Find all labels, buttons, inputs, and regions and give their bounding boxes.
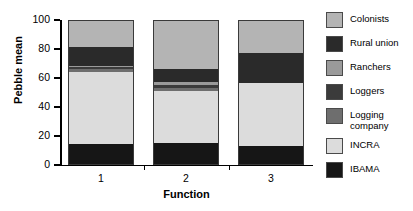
legend-label: IBAMA — [350, 162, 380, 175]
bar-segment — [239, 21, 303, 53]
legend-swatch-icon — [326, 138, 343, 154]
legend-label: Logging company — [350, 108, 389, 131]
bar-segment — [69, 21, 133, 47]
y-tick-label: 0 — [16, 158, 50, 170]
x-axis-title: Function — [60, 188, 313, 200]
legend-item[interactable]: Loggers — [326, 84, 384, 100]
chart-figure: Pebble mean 020406080100 123 Function Co… — [0, 0, 413, 211]
x-tick-label: 1 — [86, 172, 116, 184]
y-tick-mark — [54, 19, 60, 21]
legend-item[interactable]: IBAMA — [326, 162, 380, 178]
x-tick-label: 3 — [256, 172, 286, 184]
legend-swatch-icon — [326, 108, 343, 124]
legend-item[interactable]: Logging company — [326, 108, 389, 131]
bar-segment — [239, 83, 303, 145]
y-tick-mark — [54, 164, 60, 166]
legend-item[interactable]: Colonists — [326, 12, 389, 28]
bar-segment — [154, 143, 218, 165]
y-tick-mark — [54, 48, 60, 50]
legend-item[interactable]: Ranchers — [326, 60, 391, 76]
y-tick-mark — [54, 106, 60, 108]
legend-swatch-icon — [326, 60, 343, 76]
bar-segment — [154, 21, 218, 69]
legend-swatch-icon — [326, 12, 343, 28]
stacked-bar — [68, 20, 134, 165]
y-tick-label: 40 — [16, 100, 50, 112]
y-axis-title: Pebble mean — [12, 10, 24, 130]
bar-segment — [69, 72, 133, 145]
legend-item[interactable]: INCRA — [326, 138, 380, 154]
y-tick-mark — [54, 77, 60, 79]
bar-segment — [154, 91, 218, 143]
bar-segment — [239, 53, 303, 83]
bar-segment — [69, 144, 133, 165]
bar-segment — [239, 146, 303, 165]
legend-swatch-icon — [326, 162, 343, 178]
legend-label: Colonists — [350, 12, 389, 25]
y-axis-line — [60, 20, 62, 165]
y-tick-label: 100 — [16, 13, 50, 25]
x-tick-mark — [144, 165, 146, 170]
y-tick-label: 80 — [16, 42, 50, 54]
legend-swatch-icon — [326, 84, 343, 100]
x-tick-label: 2 — [171, 172, 201, 184]
plot-area: Pebble mean 020406080100 123 Function — [0, 0, 320, 211]
legend-label: Ranchers — [350, 60, 391, 73]
y-tick-label: 60 — [16, 71, 50, 83]
bar-segment — [69, 47, 133, 66]
stacked-bar — [238, 20, 304, 165]
legend-label: Rural union — [350, 36, 399, 49]
legend: ColonistsRural unionRanchersLoggersLoggi… — [326, 8, 413, 203]
y-tick-label: 20 — [16, 129, 50, 141]
stacked-bar — [153, 20, 219, 165]
y-tick-mark — [54, 135, 60, 137]
legend-label: INCRA — [350, 138, 380, 151]
legend-swatch-icon — [326, 36, 343, 52]
bar-segment — [154, 69, 218, 82]
x-tick-mark — [229, 165, 231, 170]
legend-item[interactable]: Rural union — [326, 36, 399, 52]
legend-label: Loggers — [350, 84, 384, 97]
